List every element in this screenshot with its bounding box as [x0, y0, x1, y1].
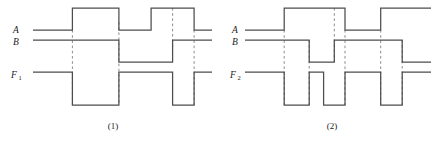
- waveform-a: [245, 8, 431, 30]
- panel-2-signal-labels: A B F 2: [229, 25, 241, 81]
- waveform-a: [33, 8, 212, 30]
- panel-2-markers: [284, 8, 402, 105]
- signal-label-f1: F: [10, 70, 17, 80]
- signal-label-b: B: [13, 37, 19, 47]
- waveform-f1: [33, 72, 212, 105]
- panel-1-caption: (1): [108, 121, 119, 131]
- waveform-f2: [245, 72, 431, 105]
- timing-diagram-figure: A B F 1 (1) A B F 2: [0, 0, 438, 143]
- waveform-b: [245, 40, 431, 62]
- signal-label-b: B: [232, 37, 238, 47]
- timing-diagram-panel-2: A B F 2 (2): [219, 0, 438, 143]
- signal-label-a: A: [231, 25, 238, 35]
- panel-1-markers: [72, 8, 194, 105]
- signal-label-f2-subscript: 2: [237, 74, 240, 81]
- panel-1-svg: A B F 1 (1): [0, 0, 219, 143]
- timing-diagram-panel-1: A B F 1 (1): [0, 0, 219, 143]
- panel-2-svg: A B F 2 (2): [219, 0, 438, 143]
- waveform-b: [33, 40, 212, 62]
- signal-label-f2: F: [229, 70, 236, 80]
- signal-label-f1-subscript: 1: [18, 74, 21, 81]
- signal-label-a: A: [12, 25, 19, 35]
- panel-1-signal-labels: A B F 1: [10, 25, 22, 81]
- panel-2-caption: (2): [327, 121, 338, 131]
